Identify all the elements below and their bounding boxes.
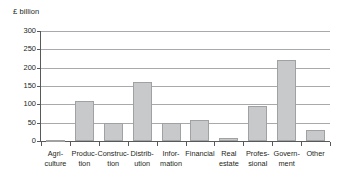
bar-chart: £ billion 050100150200250300 Agri- cultu… [0, 0, 343, 180]
x-axis-tick-mark [301, 142, 302, 146]
x-axis-tick-mark [214, 142, 215, 146]
y-axis-tick-label: 100 [10, 100, 36, 108]
y-axis-tick-labels: 050100150200250300 [8, 0, 36, 180]
y-axis-tick-label: 50 [10, 119, 36, 127]
x-axis-tick-mark [128, 142, 129, 146]
x-axis-tick-mark [41, 142, 42, 146]
bar-distribution [133, 82, 152, 141]
bar-production [75, 101, 94, 141]
y-axis-tick-mark [37, 49, 41, 50]
bar-other [306, 130, 325, 141]
bar-financial [190, 120, 209, 141]
x-axis-tick-mark [272, 142, 273, 146]
plot-area [41, 31, 330, 141]
x-axis-tick-mark [70, 142, 71, 146]
gridline [41, 49, 330, 50]
y-axis-tick-mark [37, 31, 41, 32]
x-axis-tick-mark [243, 142, 244, 146]
gridline [41, 31, 330, 32]
y-axis-tick-label: 0 [10, 137, 36, 145]
y-axis-tick-label: 150 [10, 82, 36, 90]
y-axis-tick-label: 200 [10, 64, 36, 72]
bar-information [162, 123, 181, 141]
x-axis-tick-mark [99, 142, 100, 146]
bar-real-estate [219, 138, 238, 141]
y-axis-tick-label: 300 [10, 27, 36, 35]
y-axis-tick-mark [37, 86, 41, 87]
x-axis-tick-mark [186, 142, 187, 146]
bar-professional [248, 106, 267, 141]
y-axis-tick-mark [37, 123, 41, 124]
x-axis-tick-mark [330, 142, 331, 146]
y-axis-tick-mark [37, 104, 41, 105]
x-axis-label-other: Other [297, 149, 334, 159]
y-axis-tick-mark [37, 68, 41, 69]
x-axis-tick-mark [157, 142, 158, 146]
bar-government [277, 60, 296, 141]
bar-agriculture [46, 140, 65, 142]
y-axis-tick-label: 250 [10, 45, 36, 53]
bar-construction [104, 123, 123, 141]
